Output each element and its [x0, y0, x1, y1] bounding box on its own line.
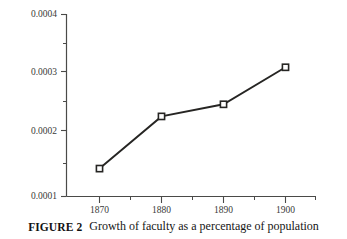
series-markers: [96, 64, 288, 172]
figure-caption: FIGURE 2 Growth of faculty as a percenta…: [0, 214, 347, 239]
data-point-1900: [282, 64, 288, 70]
x-tick-label-2: 1890: [214, 205, 233, 214]
y-tick-label-1: 0.0003: [31, 67, 57, 77]
figure-caption-label: FIGURE 2: [28, 221, 82, 233]
series-line-faculty: [100, 67, 286, 168]
chart-plot-area: 0.0004 0.0003 0.0002 0.0001: [0, 0, 347, 214]
data-point-1890: [220, 101, 226, 107]
line-chart: 0.0004 0.0003 0.0002 0.0001: [0, 0, 347, 214]
x-tick-label-1: 1880: [152, 205, 171, 214]
x-tick-label-0: 1870: [90, 205, 109, 214]
y-tick-label-3: 0.0001: [31, 191, 57, 201]
figure-caption-text: Growth of faculty as a percentage of pop…: [89, 219, 319, 234]
x-tick-label-3: 1900: [276, 205, 295, 214]
data-point-1870: [96, 165, 102, 171]
data-point-1880: [158, 113, 164, 119]
figure-container: 0.0004 0.0003 0.0002 0.0001: [0, 0, 347, 239]
y-tick-label-2: 0.0002: [31, 126, 57, 136]
y-tick-label-0: 0.0004: [31, 9, 57, 19]
